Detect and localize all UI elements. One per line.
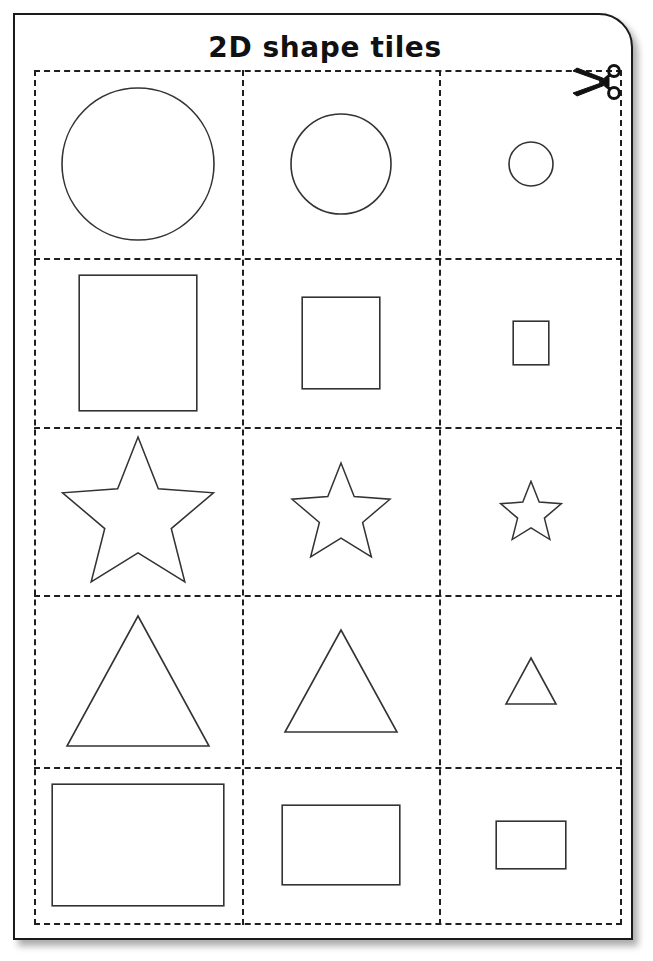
tile-star-small[interactable] — [439, 427, 622, 595]
triangle-small-shape — [504, 656, 558, 706]
square-medium-shape — [301, 296, 381, 390]
rectangle-small-shape — [495, 820, 567, 870]
tile-square-large[interactable] — [34, 258, 242, 427]
tile-circle-medium[interactable] — [242, 70, 439, 258]
triangle-medium-shape — [283, 628, 399, 734]
scissors-icon — [571, 58, 623, 106]
star-large-shape — [58, 434, 218, 588]
circle-medium-shape — [289, 112, 393, 216]
triangle-large-shape — [65, 614, 211, 748]
tile-triangle-small[interactable] — [439, 595, 622, 767]
rectangle-medium-shape — [281, 804, 401, 886]
star-medium-shape — [289, 461, 393, 561]
worksheet-page: 2D shape tiles — [0, 0, 653, 961]
star-small-shape — [499, 480, 563, 542]
circle-large-shape — [60, 86, 216, 242]
tile-triangle-large[interactable] — [34, 595, 242, 767]
tile-triangle-medium[interactable] — [242, 595, 439, 767]
tile-square-medium[interactable] — [242, 258, 439, 427]
circle-small-shape — [507, 140, 555, 188]
rectangle-large-shape — [51, 783, 225, 907]
page-title: 2D shape tiles — [15, 31, 635, 64]
tile-rectangle-small[interactable] — [439, 767, 622, 923]
square-small-shape — [512, 320, 550, 366]
tile-square-small[interactable] — [439, 258, 622, 427]
tile-rectangle-medium[interactable] — [242, 767, 439, 923]
paper-sheet: 2D shape tiles — [13, 13, 633, 940]
tile-circle-large[interactable] — [34, 70, 242, 258]
cut-out-grid — [34, 70, 622, 925]
tile-star-large[interactable] — [34, 427, 242, 595]
square-large-shape — [78, 274, 198, 412]
tile-star-medium[interactable] — [242, 427, 439, 595]
tile-rectangle-large[interactable] — [34, 767, 242, 923]
